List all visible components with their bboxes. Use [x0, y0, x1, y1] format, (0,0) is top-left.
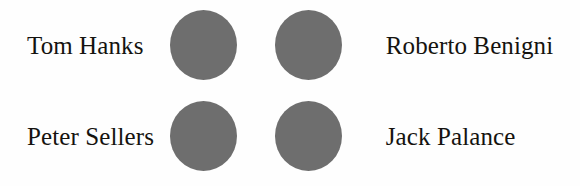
name-face-matching-figure: Tom Hanks Roberto Benigni Peter Sellers … — [0, 0, 580, 186]
face-circle-icon[interactable] — [275, 101, 342, 171]
name-label-right: Jack Palance — [358, 124, 580, 149]
face-circle-icon[interactable] — [170, 101, 237, 171]
face-slot-left[interactable] — [170, 101, 252, 171]
face-slot-right[interactable] — [252, 101, 357, 171]
pair-row: Peter Sellers Jack Palance — [0, 91, 580, 181]
name-label-left: Peter Sellers — [0, 124, 170, 149]
name-label-left: Tom Hanks — [0, 33, 170, 58]
face-circle-icon[interactable] — [275, 10, 342, 80]
face-slot-right[interactable] — [252, 10, 357, 80]
face-circle-icon[interactable] — [170, 10, 237, 80]
face-slot-left[interactable] — [170, 10, 252, 80]
pair-row: Tom Hanks Roberto Benigni — [0, 0, 580, 90]
name-label-right: Roberto Benigni — [358, 33, 580, 58]
